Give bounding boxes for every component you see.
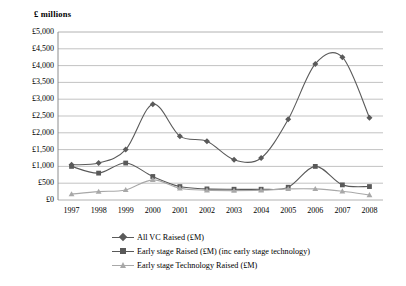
y-axis-tick-label: £5,000 xyxy=(10,28,54,36)
data-point-marker xyxy=(340,182,345,187)
data-point-marker xyxy=(285,116,291,122)
data-point-marker xyxy=(96,160,102,166)
series-2 xyxy=(69,161,372,192)
y-axis-tick-label: £2,500 xyxy=(10,112,54,120)
y-axis-tick-label: £500 xyxy=(10,179,54,187)
series-line xyxy=(72,180,370,195)
data-point-marker xyxy=(231,157,237,163)
legend-marker-triangle-icon xyxy=(112,260,134,270)
y-axis-tick-label: £4,000 xyxy=(10,62,54,70)
data-point-marker xyxy=(123,161,128,166)
legend-label: All VC Raised (£M) xyxy=(137,233,204,242)
series-1 xyxy=(69,53,373,168)
legend-item[interactable]: Early stage Technology Raised (£M) xyxy=(112,258,310,272)
y-axis-tick-label: £0 xyxy=(10,196,54,204)
y-axis-tick-label: £3,000 xyxy=(10,95,54,103)
legend-marker-square-icon xyxy=(112,246,134,256)
series-line xyxy=(72,163,370,190)
x-axis-tick-label: 2008 xyxy=(352,207,386,215)
y-axis-tick-label: £3,500 xyxy=(10,78,54,86)
chart-legend: All VC Raised (£M)Early stage Raised (£M… xyxy=(112,230,310,272)
y-axis-tick-label: £1,500 xyxy=(10,146,54,154)
y-axis-tick-label: £1,000 xyxy=(10,162,54,170)
data-point-marker xyxy=(313,164,318,169)
legend-label: Early stage Technology Raised (£M) xyxy=(137,261,257,270)
y-axis-tick-label: £2,000 xyxy=(10,129,54,137)
data-point-marker xyxy=(150,101,156,107)
legend-item[interactable]: Early stage Raised (£M) (inc early stage… xyxy=(112,244,310,258)
vc-funding-line-chart: £ millions £5,000£4,500£4,000£3,500£3,00… xyxy=(0,0,406,286)
data-point-marker xyxy=(96,171,101,176)
series-3 xyxy=(69,177,373,197)
legend-marker-diamond-icon xyxy=(112,232,134,242)
series-line xyxy=(72,53,370,165)
y-axis-tick-label: £4,500 xyxy=(10,45,54,53)
legend-item[interactable]: All VC Raised (£M) xyxy=(112,230,310,244)
legend-label: Early stage Raised (£M) (inc early stage… xyxy=(137,247,310,256)
data-point-marker xyxy=(69,164,74,169)
data-point-marker xyxy=(366,115,372,121)
data-point-marker xyxy=(367,184,372,189)
data-point-marker xyxy=(204,138,210,144)
